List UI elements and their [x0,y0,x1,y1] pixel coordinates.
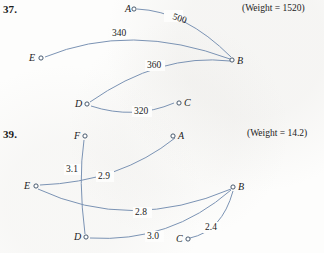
node-39-D [84,235,88,239]
node-label-39-E: E [23,180,30,191]
node-39-E [34,184,38,188]
node-label-39-B: B [238,181,244,192]
node-39-C [186,237,190,241]
edge-39-F-D [81,140,85,234]
edge-weight-39-E-A: 2.9 [98,171,110,181]
node-39-F [83,134,87,138]
graph-39: 3.1 2.9 2.8 3.0 2.4 F A E B D C [0,0,324,253]
node-label-39-A: A [177,130,185,141]
node-label-39-D: D [73,231,82,242]
node-label-39-C: C [176,233,183,244]
edge-weight-39-E-B: 2.8 [135,207,147,217]
edge-weight-39-F-D: 3.1 [66,164,78,174]
node-39-A [171,134,175,138]
node-label-39-F: F [73,130,81,141]
edge-weight-39-C-B: 2.4 [205,222,217,232]
node-39-B [231,185,235,189]
edge-weight-39-D-B: 3.0 [147,231,159,241]
